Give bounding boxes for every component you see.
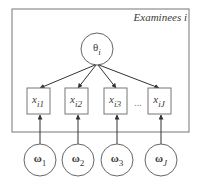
omega-symbol: ω [34, 152, 42, 164]
omega-subscript: 2 [80, 158, 85, 168]
plate-label: Examinees i [134, 11, 187, 23]
item-subscript: iJ [158, 99, 165, 109]
omega-subscript: J [163, 158, 167, 168]
item-label-x1: xi1 [32, 93, 44, 108]
omega-symbol: ω [111, 152, 119, 164]
omega-subscript: 1 [42, 158, 47, 168]
item-label-xJ: xiJ [153, 93, 165, 108]
omega-label-J: ωJ [155, 152, 167, 167]
omega-label-2: ω2 [72, 152, 85, 167]
item-label-x2: xi2 [70, 93, 82, 108]
omega-label-3: ω3 [111, 152, 124, 167]
item-subscript: i2 [75, 99, 82, 109]
theta-subscript: i [98, 47, 101, 57]
item-subscript: i1 [37, 99, 44, 109]
omega-label-1: ω1 [34, 152, 47, 167]
omega-subscript: 3 [119, 158, 124, 168]
diagram-canvas [0, 0, 199, 186]
edge-theta-xJ [99, 65, 159, 88]
omega-symbol: ω [155, 152, 163, 164]
item-label-x3: xi3 [109, 93, 121, 108]
theta-label: θi [93, 41, 101, 56]
item-subscript: i3 [114, 99, 121, 109]
ellipsis: ... [134, 97, 142, 108]
omega-symbol: ω [72, 152, 80, 164]
